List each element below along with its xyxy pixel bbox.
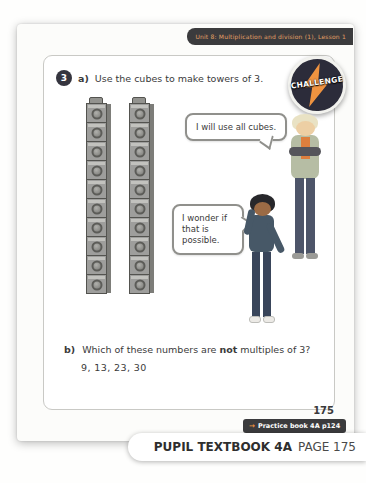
cube	[86, 179, 107, 199]
part-b-text-before: Which of these numbers are	[82, 344, 219, 355]
boy-shoe	[306, 253, 318, 259]
textbook-page: PAGE 175	[298, 440, 356, 454]
cube-tower	[129, 103, 150, 294]
cube	[86, 141, 107, 161]
girl-leg	[263, 252, 271, 317]
question-part-b: b) Which of these numbers are not multip…	[64, 344, 310, 355]
cube-stud	[91, 242, 102, 253]
cube	[86, 217, 107, 237]
cube	[86, 255, 107, 275]
cube	[129, 103, 150, 123]
cube	[129, 122, 150, 142]
cube-stud	[134, 280, 145, 291]
cube-stud	[91, 223, 102, 234]
cube-stud	[134, 242, 145, 253]
cube	[129, 141, 150, 161]
boy-shoe	[292, 253, 304, 259]
cube	[129, 255, 150, 275]
unit-lesson-label: Unit 8: Multiplication and division (1),…	[195, 33, 346, 40]
cube-stud	[91, 166, 102, 177]
cube-stud	[91, 261, 102, 272]
part-b-text: Which of these numbers are not multiples…	[82, 344, 310, 355]
character-boy	[283, 114, 327, 264]
cube	[129, 160, 150, 180]
arrow-right-icon: →	[249, 422, 255, 430]
boy-crossed-arms	[289, 147, 321, 156]
cube-stud	[134, 261, 145, 272]
cube-tower	[86, 103, 107, 294]
textbook-name: PUPIL TEXTBOOK 4A	[154, 440, 292, 454]
girl-face	[254, 202, 271, 216]
part-b-numbers: 9, 13, 23, 30	[81, 362, 147, 373]
cube	[86, 236, 107, 256]
character-girl	[239, 194, 287, 332]
speech-bubble-boy: I will use all cubes.	[185, 113, 287, 141]
cube-stud	[91, 128, 102, 139]
cube	[129, 198, 150, 218]
practice-book-link: → Practice book 4A p124	[243, 419, 346, 433]
cube-stud	[91, 109, 102, 120]
question-part-a: 3 a) Use the cubes to make towers of 3.	[56, 70, 263, 86]
book-page: Unit 8: Multiplication and division (1),…	[17, 24, 354, 441]
bottom-bar: PUPIL TEXTBOOK 4A PAGE 175	[128, 433, 366, 461]
page-number: 175	[313, 405, 334, 416]
cube	[129, 274, 150, 294]
cube-stud	[134, 166, 145, 177]
part-a-text: Use the cubes to make towers of 3.	[95, 73, 263, 84]
cube-stud	[134, 185, 145, 196]
girl-shoe	[249, 316, 261, 323]
cube	[86, 198, 107, 218]
cube	[86, 274, 107, 294]
boy-face	[296, 121, 315, 136]
part-b-label: b)	[64, 344, 75, 355]
cube-stud	[91, 204, 102, 215]
boy-leg	[295, 178, 304, 254]
part-b-emphasis: not	[219, 344, 237, 355]
boy-leg	[306, 178, 315, 254]
cube-stud	[134, 109, 145, 120]
cube-stud	[134, 223, 145, 234]
speech-bubble-girl: I wonder if that is possible.	[172, 204, 244, 255]
question-number-badge: 3	[56, 70, 72, 86]
cube	[129, 236, 150, 256]
challenge-badge: CHALLENGE	[284, 52, 350, 118]
cube-stud	[134, 147, 145, 158]
cube-stud	[91, 147, 102, 158]
cube	[86, 103, 107, 123]
cube-stud	[91, 280, 102, 291]
unit-lesson-tab: Unit 8: Multiplication and division (1),…	[187, 28, 353, 45]
cube	[129, 179, 150, 199]
girl-leg	[252, 252, 260, 317]
part-a-label: a)	[78, 73, 89, 84]
cube	[86, 122, 107, 142]
practice-book-label: Practice book 4A p124	[258, 422, 340, 430]
cube	[86, 160, 107, 180]
cube-stud	[134, 204, 145, 215]
cube	[129, 217, 150, 237]
girl-shoe	[263, 316, 275, 323]
part-b-text-after: multiples of 3?	[237, 344, 310, 355]
cube-stud	[91, 185, 102, 196]
content-card: 3 a) Use the cubes to make towers of 3. …	[43, 55, 335, 410]
cube-stud	[134, 128, 145, 139]
